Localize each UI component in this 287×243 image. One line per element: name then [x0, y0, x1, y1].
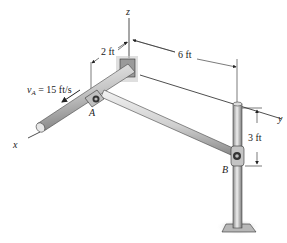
point-B-label: B [222, 164, 228, 175]
velocity-label: vA = 15 ft/s [27, 84, 72, 97]
z-axis-label: z [125, 6, 130, 17]
x-axis-label: x [12, 139, 18, 150]
dimension-6ft-label: 6 ft [178, 49, 192, 60]
velocity-value: = 15 ft/s [36, 84, 72, 95]
dimension-3ft-label: 3 ft [248, 132, 262, 143]
rod-AB [101, 90, 233, 155]
y-axis-line [140, 75, 282, 119]
point-A-label: A [88, 107, 96, 118]
rod-collar-diagram: z y x 2 ft 6 ft 3 ft A B vA = 15 ft/s [0, 0, 287, 243]
collar-B [231, 146, 244, 166]
y-axis-label: y [277, 113, 283, 124]
dimension-2ft-label: 2 ft [101, 46, 115, 57]
x-axis-line [28, 132, 40, 138]
